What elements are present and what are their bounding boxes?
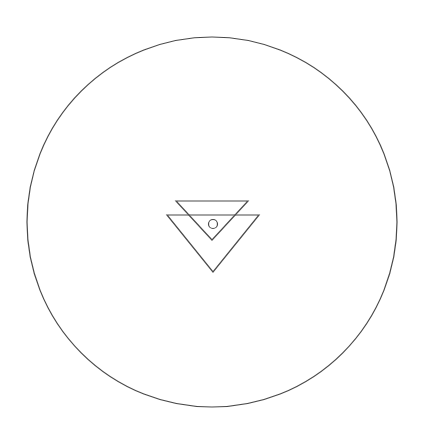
figure-svg: [0, 0, 426, 447]
drawing-canvas: [0, 0, 426, 447]
canvas-background: [0, 0, 426, 447]
